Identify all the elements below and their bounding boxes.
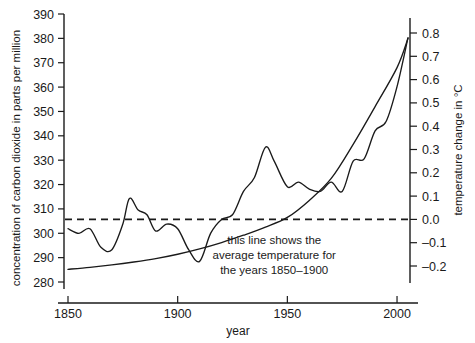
left-axis-ticks: 280290300310320330340350360370380390	[33, 8, 64, 290]
left-tick-label: 310	[33, 202, 54, 216]
right-tick-label: 0.7	[422, 50, 439, 64]
right-axis-group: –0.2–0.10.00.10.20.30.40.50.60.70.8 temp…	[410, 18, 464, 283]
left-tick-label: 370	[33, 56, 54, 70]
right-axis-ticks: –0.2–0.10.00.10.20.30.40.50.60.70.8	[410, 27, 446, 274]
right-tick-label: 0.0	[422, 213, 439, 227]
left-tick-label: 390	[33, 8, 54, 22]
right-tick-label: 0.8	[422, 27, 439, 41]
left-axis-title: concentration of carbon dioxide in parts…	[10, 30, 22, 286]
left-tick-label: 360	[33, 81, 54, 95]
left-tick-label: 320	[33, 178, 54, 192]
x-axis-ticks: 1850190019502000	[54, 296, 411, 321]
annotation-line: the years 1850–1900	[220, 264, 328, 276]
x-tick-label: 1900	[164, 307, 192, 321]
right-tick-label: 0.3	[422, 143, 439, 157]
x-axis-group: 1850190019502000 year	[54, 296, 418, 338]
left-tick-label: 280	[33, 276, 54, 290]
left-tick-label: 290	[33, 251, 54, 265]
right-tick-label: 0.6	[422, 73, 439, 87]
right-tick-label: –0.2	[422, 260, 446, 274]
baseline-note-annotation: this line shows theaverage temperature f…	[213, 234, 337, 276]
left-tick-label: 380	[33, 32, 54, 46]
series-temperature-change	[68, 38, 408, 262]
left-tick-label: 330	[33, 154, 54, 168]
x-tick-label: 2000	[383, 307, 411, 321]
x-axis-title: year	[226, 324, 249, 338]
annotation-line: this line shows the	[227, 234, 321, 246]
right-axis-title: temperature change in °C	[452, 84, 464, 215]
chart-container: 280290300310320330340350360370380390 con…	[0, 0, 475, 343]
right-tick-label: 0.2	[422, 166, 439, 180]
right-tick-label: 0.1	[422, 190, 439, 204]
left-tick-label: 350	[33, 105, 54, 119]
annotation-line: average temperature for	[213, 249, 337, 261]
left-tick-label: 340	[33, 129, 54, 143]
left-axis-group: 280290300310320330340350360370380390 con…	[10, 8, 64, 290]
left-tick-label: 300	[33, 227, 54, 241]
right-tick-label: 0.4	[422, 120, 439, 134]
right-tick-label: –0.1	[422, 236, 446, 250]
x-tick-label: 1850	[54, 307, 82, 321]
x-tick-label: 1950	[273, 307, 301, 321]
right-tick-label: 0.5	[422, 96, 439, 110]
climate-line-chart: 280290300310320330340350360370380390 con…	[0, 0, 475, 343]
